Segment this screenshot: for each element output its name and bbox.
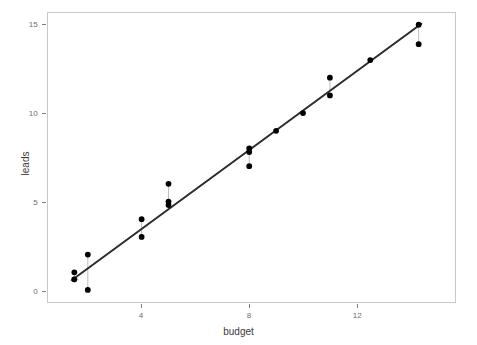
data-point	[139, 216, 145, 222]
y-tick-label: 10	[12, 108, 38, 117]
plot-panel	[47, 12, 456, 303]
y-tick-mark	[42, 291, 46, 292]
data-layer	[48, 13, 455, 302]
data-point	[300, 110, 306, 116]
x-tick-label: 4	[139, 311, 144, 320]
data-point	[246, 149, 252, 155]
x-tick-mark	[141, 304, 142, 308]
y-tick-mark	[42, 113, 46, 114]
y-tick-mark	[42, 24, 46, 25]
y-tick-mark	[42, 202, 46, 203]
data-point	[367, 57, 373, 63]
data-point	[166, 202, 172, 208]
y-tick-label: 5	[12, 197, 38, 206]
data-point	[246, 163, 252, 169]
scatter-plot-figure: 051015 4812 budget leads	[0, 0, 477, 345]
data-point	[85, 252, 91, 258]
x-tick-label: 8	[247, 311, 252, 320]
data-point	[71, 269, 77, 275]
data-point	[327, 75, 333, 81]
data-point	[166, 181, 172, 187]
y-axis-title: leads	[20, 134, 31, 194]
y-tick-label: 0	[12, 286, 38, 295]
x-tick-label: 12	[353, 311, 362, 320]
data-point	[85, 287, 91, 293]
data-point	[71, 276, 77, 282]
data-point	[139, 234, 145, 240]
x-tick-mark	[357, 304, 358, 308]
data-point	[273, 128, 279, 134]
y-tick-label: 15	[12, 19, 38, 28]
data-point	[327, 93, 333, 99]
data-point	[416, 41, 422, 47]
x-axis-title: budget	[0, 326, 477, 337]
data-point	[416, 22, 422, 28]
x-tick-mark	[249, 304, 250, 308]
